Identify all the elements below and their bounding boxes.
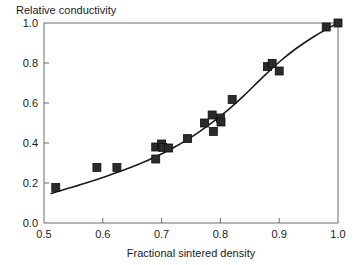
data-point <box>113 163 121 171</box>
y-tick-label: 0.0 <box>23 217 38 229</box>
data-point <box>183 135 191 143</box>
scatter-plot: Relative conductivity 0.50.60.70.80.91.0… <box>0 0 355 265</box>
x-tick-label: 0.6 <box>95 228 110 240</box>
chart-container: Relative conductivity 0.50.60.70.80.91.0… <box>0 0 355 265</box>
data-point <box>268 59 276 67</box>
y-tick-label: 0.6 <box>23 97 38 109</box>
x-tick-label: 0.9 <box>272 228 287 240</box>
data-point <box>217 118 225 126</box>
x-tick-label: 0.7 <box>154 228 169 240</box>
data-point <box>228 95 236 103</box>
y-tick-label: 1.0 <box>23 17 38 29</box>
data-point <box>334 19 342 27</box>
x-axis-title: Fractional sintered density <box>127 247 256 259</box>
y-tick-label: 0.4 <box>23 137 38 149</box>
data-point <box>208 111 216 119</box>
data-point <box>165 144 173 152</box>
y-tick-label: 0.2 <box>23 177 38 189</box>
y-axis-ticks <box>44 63 49 183</box>
data-point <box>93 163 101 171</box>
y-tick-label: 0.8 <box>23 57 38 69</box>
y-axis-title: Relative conductivity <box>16 4 117 16</box>
x-tick-label: 1.0 <box>330 228 345 240</box>
x-tick-label: 0.8 <box>213 228 228 240</box>
y-axis-tick-labels: 0.00.20.40.60.81.0 <box>23 17 38 229</box>
data-point <box>201 119 209 127</box>
data-point <box>152 155 160 163</box>
data-point <box>52 183 60 191</box>
data-point <box>209 127 217 135</box>
plot-frame <box>44 23 338 223</box>
x-axis-ticks <box>103 218 279 223</box>
data-point-group <box>52 19 342 191</box>
x-axis-tick-labels: 0.50.60.70.80.91.0 <box>36 228 345 240</box>
x-tick-label: 0.5 <box>36 228 51 240</box>
data-point <box>322 23 330 31</box>
data-point <box>275 67 283 75</box>
